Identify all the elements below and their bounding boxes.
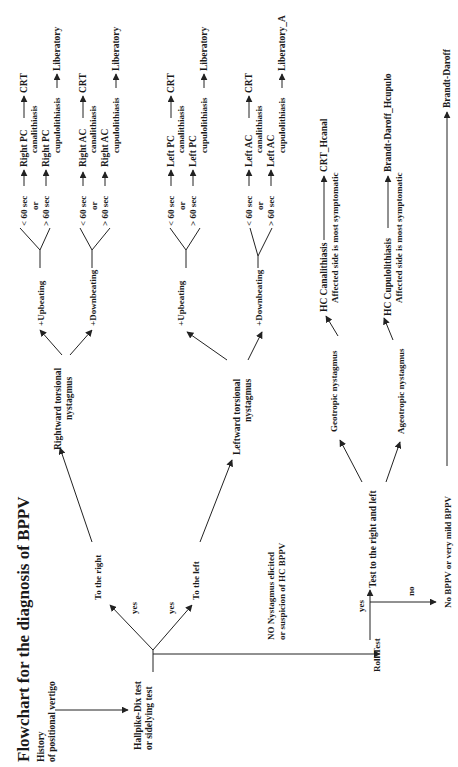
dx-right-ac-canalithiasis: Right AC canalithiasis xyxy=(78,105,98,167)
edge-rt-down xyxy=(70,330,92,355)
svg-text:Left PC: Left PC xyxy=(166,135,176,167)
hallpike-label-2: or sidelying test xyxy=(144,685,154,750)
to-left-label: To the left xyxy=(191,561,201,600)
svg-text:> 60 sec: > 60 sec xyxy=(41,196,51,226)
history-label: History xyxy=(36,731,46,762)
svg-text:Right PC: Right PC xyxy=(19,129,29,167)
svg-text:< 60 sec: < 60 sec xyxy=(244,196,254,226)
rightward-torsional-label-2: nystagmus xyxy=(64,376,74,420)
svg-text:Left AC: Left AC xyxy=(244,134,254,167)
geotropic-label: Geotropic nystagmus xyxy=(329,350,339,432)
svg-text:> 60 sec: > 60 sec xyxy=(100,196,110,226)
edge-geo xyxy=(340,440,362,482)
edge-lt-down xyxy=(248,332,262,360)
svg-text:cupulolithiasis: cupulolithiasis xyxy=(199,97,209,153)
no-nystagmus-label-2: or suspicion of HC BPPV xyxy=(277,542,287,640)
history-label-2: of positional vertigo xyxy=(47,681,57,762)
tx-brandt-daroff-hcupulo: Brandt-Daroff_Hcupulo xyxy=(383,73,393,172)
svg-text:or: or xyxy=(255,202,265,211)
edge-rt-up xyxy=(40,330,62,355)
tx-lib-rpc: Liberatory xyxy=(52,26,62,71)
svg-text:Right PC: Right PC xyxy=(41,129,51,167)
fork-left-up xyxy=(170,228,200,268)
svg-text:or: or xyxy=(177,202,187,211)
svg-text:> 60 sec: > 60 sec xyxy=(188,196,198,226)
yes-left-label: yes xyxy=(166,602,176,614)
fork-right-up xyxy=(20,228,50,268)
tx-lib-lpc: Liberatory xyxy=(199,26,209,71)
svg-text:> 60 sec: > 60 sec xyxy=(266,196,276,226)
yes-right-label: yes xyxy=(129,602,139,614)
edge-ageo-hccup xyxy=(384,318,393,340)
right-upbeating-label: +Upbeating xyxy=(36,280,46,326)
tx-crt-rpc: CRT xyxy=(19,73,29,93)
left-upbeating-label: +Upbeating xyxy=(176,280,186,326)
dx-right-ac-cupulolithiasis: Right AC cupulolithiasis xyxy=(100,97,121,167)
svg-text:cupulolithiasis: cupulolithiasis xyxy=(277,97,287,153)
test-right-left-label: Test to the right and left xyxy=(368,490,378,588)
tx-crt-rac: CRT xyxy=(78,73,88,93)
roll-no-label: no xyxy=(406,586,416,596)
bppv-flowchart: Flowchart for the diagnosis of BPPV Hist… xyxy=(0,0,458,767)
edge-ageo xyxy=(386,442,400,482)
timing-group-rpc: < 60 sec or > 60 sec xyxy=(19,196,51,226)
edge-to-right xyxy=(60,448,92,542)
svg-text:< 60 sec: < 60 sec xyxy=(19,196,29,226)
dx-right-pc-canalithiasis: Right PC canalithiasis xyxy=(19,105,39,167)
hallpike-label: Hallpike-Dix test xyxy=(133,680,143,750)
svg-text:< 60 sec: < 60 sec xyxy=(78,196,88,226)
hc-cupulolithiasis-note: Affected side is most symptomatic xyxy=(394,173,404,303)
timing-group-lac: < 60 sec or > 60 sec xyxy=(244,196,276,226)
no-bppv-label: No BPPV or very mild BPPV xyxy=(443,496,453,608)
timing-group-lpc: < 60 sec or > 60 sec xyxy=(166,196,198,226)
timing-group-rac: < 60 sec or > 60 sec xyxy=(78,196,110,226)
svg-text:< 60 sec: < 60 sec xyxy=(166,196,176,226)
roll-test-label: Roll Test xyxy=(372,638,382,672)
dx-right-pc-cupulolithiasis: Right PC cupulolithiasis xyxy=(41,97,62,167)
leftward-torsional-label: Leftward torsional xyxy=(232,378,242,455)
svg-text:Right AC: Right AC xyxy=(78,129,88,167)
svg-text:Right AC: Right AC xyxy=(100,129,110,167)
tx-crt-lpc: CRT xyxy=(166,73,176,93)
right-downbeating-label: +Downbeating xyxy=(88,269,98,326)
ageotropic-label: Ageotropic nystagmus xyxy=(396,348,406,434)
page-title: Flowchart for the diagnosis of BPPV xyxy=(14,496,33,762)
svg-text:canalithiasis: canalithiasis xyxy=(88,105,98,153)
svg-text:Left PC: Left PC xyxy=(188,135,198,167)
svg-text:or: or xyxy=(30,202,40,211)
rightward-torsional-label: Rightward torsional xyxy=(53,368,63,450)
svg-text:canalithiasis: canalithiasis xyxy=(254,105,264,153)
edge-lt-up xyxy=(187,332,227,360)
left-downbeating-label: +Downbeating xyxy=(254,269,264,326)
hc-canalithiasis-note: Affected side is most symptomatic xyxy=(330,173,340,303)
no-nystagmus-label: NO Nystagmus elicited xyxy=(266,552,276,640)
dx-left-ac-canalithiasis: Left AC canalithiasis xyxy=(244,105,264,167)
hc-cupulolithiasis-label: HC Cupulolithiasis xyxy=(383,238,393,316)
tx-crt-hcanal: CRT_Hcanal xyxy=(319,118,329,172)
fork-left-down xyxy=(250,228,272,268)
leftward-torsional-label-2: nystagmus xyxy=(243,378,253,422)
edge-to-left xyxy=(200,460,232,542)
edge-geo-hccan xyxy=(326,316,338,336)
svg-text:cupulolithiasis: cupulolithiasis xyxy=(52,97,62,153)
tx-lib-a-lac: Liberatory_A xyxy=(277,15,287,71)
fork-right-down xyxy=(80,228,110,268)
to-right-label: To the right xyxy=(93,555,103,600)
svg-text:or: or xyxy=(89,202,99,211)
tx-brandt-daroff: Brandt-Daroff xyxy=(442,48,452,108)
tx-lib-rac: Liberatory xyxy=(111,26,121,71)
svg-text:Left AC: Left AC xyxy=(266,134,276,167)
tx-crt-lac: CRT xyxy=(244,73,254,93)
hc-canalithiasis-label: HC Canalithiasis xyxy=(319,242,329,312)
svg-text:canalithiasis: canalithiasis xyxy=(29,105,39,153)
roll-yes-label: yes xyxy=(356,600,366,612)
svg-text:cupulolithiasis: cupulolithiasis xyxy=(111,97,121,153)
dx-left-pc-canalithiasis: Left PC canalithiasis xyxy=(166,105,186,167)
dx-left-pc-cupulolithiasis: Left PC cupulolithiasis xyxy=(188,97,209,167)
dx-left-ac-cupulolithiasis: Left AC cupulolithiasis xyxy=(266,97,287,167)
svg-text:canalithiasis: canalithiasis xyxy=(176,105,186,153)
